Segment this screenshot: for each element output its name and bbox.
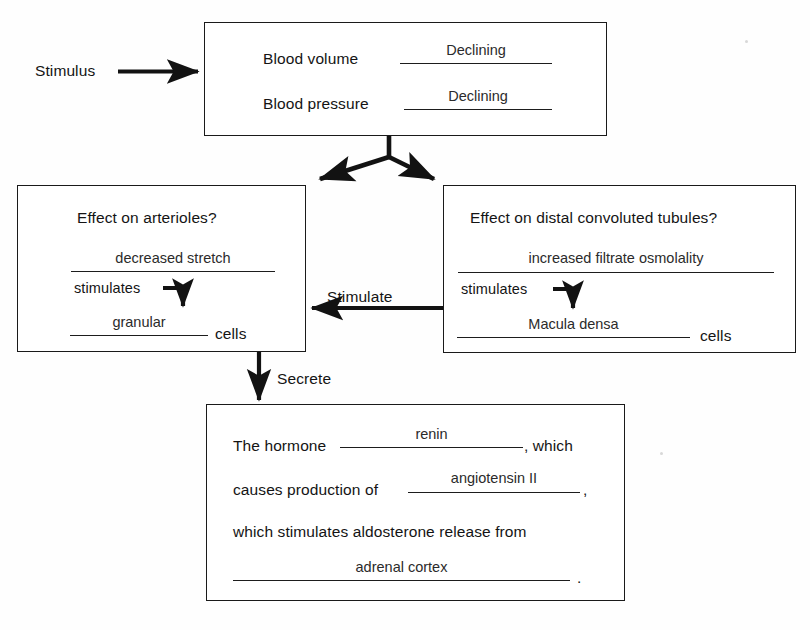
bottom-box-line4-answer[interactable]: adrenal cortex — [233, 559, 570, 575]
bottom-box-line2-prefix: causes production of — [233, 481, 378, 499]
top-box — [204, 22, 607, 136]
top-box-row-1-label: Blood pressure — [263, 95, 369, 113]
bottom-box-line2-answer[interactable]: angiotensin II — [408, 470, 580, 486]
right-box-cell-answer[interactable]: Macula densa — [457, 316, 690, 332]
secrete-arrow-label: Secrete — [277, 370, 331, 388]
stimulate-arrow-label: Stimulate — [327, 288, 393, 306]
right-box-question: Effect on distal convoluted tubules? — [470, 209, 717, 227]
paper-speck — [745, 40, 748, 43]
bottom-box-line1-suffix: , which — [524, 437, 573, 455]
right-box-connector-label: stimulates — [461, 281, 527, 297]
left-box-answer[interactable]: decreased stretch — [71, 250, 275, 266]
left-box-connector-label: stimulates — [74, 280, 140, 296]
right-box-cell-rule — [457, 337, 690, 338]
top-box-row-1-answer[interactable]: Declining — [404, 88, 552, 104]
bottom-box-line4-suffix: . — [577, 569, 581, 587]
bottom-box-line1-rule — [340, 447, 523, 448]
top-box-row-1-rule — [404, 109, 552, 110]
bottom-box-line1-prefix: The hormone — [233, 437, 326, 455]
bottom-box-line2-suffix: , — [583, 481, 587, 499]
bottom-box-line4-rule — [233, 580, 570, 581]
right-box-cell-suffix: cells — [700, 327, 732, 345]
bottom-box-line1-answer[interactable]: renin — [340, 426, 523, 442]
left-box-cell-rule — [70, 335, 208, 336]
top-box-row-0-answer[interactable]: Declining — [400, 42, 552, 58]
left-box-cell-answer[interactable]: granular — [70, 314, 208, 330]
diagram-canvas: Stimulus Blood volume Declining Blood pr… — [0, 0, 810, 630]
paper-speck — [660, 452, 663, 455]
split-arrow — [320, 136, 434, 179]
left-box-answer-rule — [71, 271, 275, 272]
left-box-cell-suffix: cells — [215, 325, 247, 343]
bottom-box-line3: which stimulates aldosterone release fro… — [233, 523, 527, 541]
right-box-answer-rule — [458, 272, 774, 273]
bottom-box-line2-rule — [408, 492, 580, 493]
top-box-row-0-rule — [400, 63, 552, 64]
right-box-answer[interactable]: increased filtrate osmolality — [458, 250, 774, 266]
top-box-row-0-label: Blood volume — [263, 50, 358, 68]
left-box-question: Effect on arterioles? — [77, 209, 217, 227]
stimulus-label: Stimulus — [35, 62, 95, 80]
